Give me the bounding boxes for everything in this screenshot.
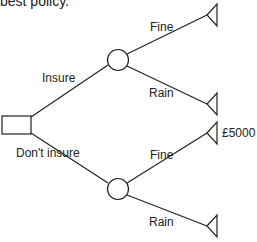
terminal-node-1 bbox=[207, 4, 217, 26]
label-dont-insure: Don't insure bbox=[16, 147, 80, 159]
payoff-value: £5000 bbox=[222, 127, 255, 139]
terminal-node-2 bbox=[207, 93, 217, 115]
decision-tree-diagram bbox=[0, 0, 257, 242]
chance-node-insure bbox=[108, 50, 129, 71]
chance-node-dont-insure bbox=[108, 179, 129, 200]
label-insure-fine: Fine bbox=[150, 21, 173, 33]
terminal-node-4 bbox=[207, 215, 217, 237]
label-insure-rain: Rain bbox=[149, 87, 174, 99]
terminal-node-3 bbox=[207, 122, 217, 144]
label-insure: Insure bbox=[42, 72, 75, 84]
label-dont-insure-fine: Fine bbox=[150, 149, 173, 161]
label-dont-insure-rain: Rain bbox=[149, 216, 174, 228]
decision-node bbox=[2, 116, 31, 134]
